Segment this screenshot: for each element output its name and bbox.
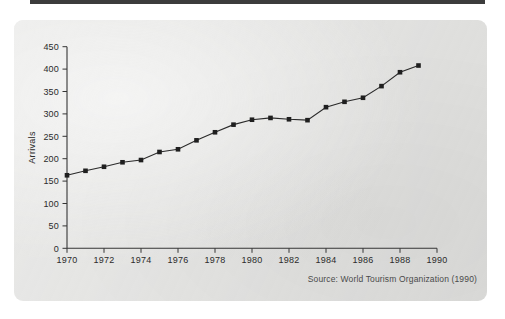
x-axis-tick-label: 1972	[94, 255, 115, 265]
x-axis-tick-label: 1970	[57, 255, 78, 265]
y-axis-tick-label: 150	[43, 176, 59, 186]
y-axis-tick-label: 400	[43, 64, 59, 74]
data-point-marker	[213, 130, 218, 135]
x-axis-tick-label: 1978	[205, 255, 226, 265]
data-point-marker	[231, 122, 236, 127]
x-axis-tick-label: 1986	[353, 255, 374, 265]
x-axis-tick-label: 1988	[390, 255, 411, 265]
data-point-marker	[268, 116, 273, 121]
chart-svg: 050100150200250300350400450 197019721974…	[0, 0, 505, 319]
y-axis-tick-label: 200	[43, 154, 59, 164]
data-point-marker	[250, 117, 255, 122]
data-point-marker	[379, 84, 384, 89]
data-point-marker	[416, 63, 421, 68]
y-axis-title: Arrivals	[27, 131, 37, 164]
y-axis-tick-label: 350	[43, 87, 59, 97]
data-point-marker	[176, 147, 181, 152]
data-point-marker	[65, 173, 70, 178]
data-point-marker	[194, 138, 199, 143]
data-point-marker	[139, 158, 144, 163]
data-point-marker	[342, 100, 347, 105]
series-line	[67, 66, 419, 176]
y-axis: 050100150200250300350400450	[43, 42, 67, 254]
data-series-arrivals	[65, 63, 421, 177]
data-point-marker	[120, 160, 125, 165]
x-axis-tick-label: 1982	[279, 255, 300, 265]
y-axis-tick-label: 450	[43, 42, 59, 52]
y-axis-tick-label: 50	[49, 221, 59, 231]
line-chart: 050100150200250300350400450 197019721974…	[0, 0, 505, 319]
x-axis-tick-label: 1980	[242, 255, 263, 265]
y-axis-tick-label: 0	[54, 244, 59, 254]
data-point-marker	[157, 150, 162, 155]
data-point-marker	[287, 117, 292, 122]
data-point-marker	[361, 95, 366, 100]
data-point-marker	[305, 118, 310, 123]
y-axis-tick-label: 100	[43, 199, 59, 209]
y-axis-tick-label: 250	[43, 132, 59, 142]
y-axis-tick-label: 300	[43, 109, 59, 119]
x-axis: 1970197219741976197819801982198419861988…	[57, 248, 448, 265]
x-axis-tick-label: 1984	[316, 255, 337, 265]
x-axis-tick-label: 1976	[168, 255, 189, 265]
data-point-marker	[324, 105, 329, 110]
data-point-marker	[398, 70, 403, 75]
source-note: Source: World Tourism Organization (1990…	[308, 274, 477, 284]
data-point-marker	[83, 169, 88, 174]
data-point-marker	[102, 164, 107, 169]
x-axis-tick-label: 1974	[131, 255, 152, 265]
x-axis-tick-label: 1990	[427, 255, 448, 265]
